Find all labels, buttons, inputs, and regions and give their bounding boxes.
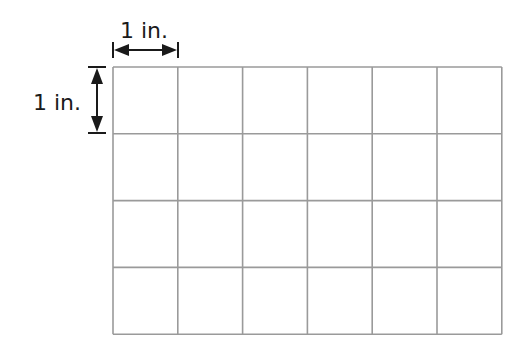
horizontal-dimension-label: 1 in. [120,18,168,43]
vertical-dimension-label: 1 in. [33,90,81,115]
arrow-left-icon [114,44,129,56]
vertical-dimension: 1 in. [33,67,106,133]
unit-grid-diagram: 1 in. 1 in. [0,0,528,361]
arrow-right-icon [162,44,177,56]
horizontal-dimension: 1 in. [113,18,178,58]
arrow-down-icon [91,116,103,132]
grid [113,67,502,334]
arrow-up-icon [91,68,103,84]
